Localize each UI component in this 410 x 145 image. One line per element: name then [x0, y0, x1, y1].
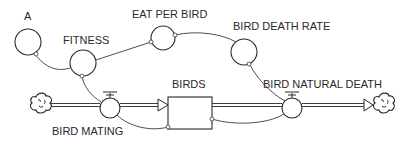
aux-fitness[interactable]	[70, 50, 96, 76]
connector-eat-per-bird-to-bird-death-rate	[175, 33, 236, 42]
connector-markers	[34, 33, 251, 129]
flow-arrowhead-into-birds	[158, 99, 168, 111]
aux-bird-death-rate[interactable]	[231, 39, 257, 65]
aux-eat-per-bird[interactable]	[151, 26, 175, 50]
connector-a-to-fitness	[35, 54, 70, 69]
stock-birds[interactable]	[168, 97, 212, 129]
connector-birds-to-bird-natural-death	[212, 114, 284, 123]
flow-bird-mating-label: BIRD MATING	[52, 125, 123, 137]
source-cloud-icon[interactable]	[31, 93, 52, 113]
flow-valve-bird-natural-death[interactable]	[282, 92, 302, 118]
flow-arrowhead-into-sink	[364, 99, 373, 111]
flow-bird-natural-death-label: BIRD NATURAL DEATH	[263, 78, 382, 90]
aux-eat-per-bird-label: EAT PER BIRD	[132, 8, 207, 20]
connector-fitness-to-bird-mating	[82, 76, 101, 102]
connector-birds-to-bird-mating	[117, 115, 168, 129]
stock-flow-diagram: BIRDS BIRD MATING BIRD NATURAL DEATH A F…	[0, 0, 410, 145]
stock-birds-label: BIRDS	[172, 78, 206, 90]
aux-fitness-label: FITNESS	[63, 34, 109, 46]
aux-a[interactable]	[15, 29, 41, 55]
aux-bird-death-rate-label: BIRD DEATH RATE	[233, 20, 330, 32]
sink-cloud-icon[interactable]	[374, 93, 395, 113]
aux-a-label: A	[24, 10, 32, 22]
flow-valve-bird-mating[interactable]	[100, 92, 120, 118]
